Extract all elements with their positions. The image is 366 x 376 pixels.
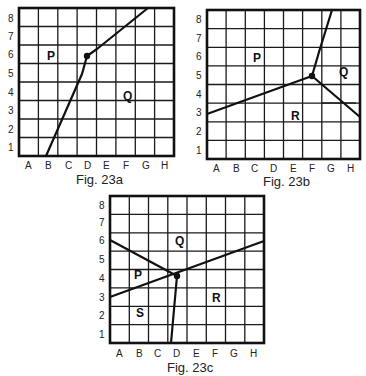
fig-23c-point: [174, 273, 180, 279]
x-tick: G: [327, 163, 335, 174]
y-tick: 6: [8, 49, 14, 60]
region-label-r: R: [291, 109, 300, 123]
fig-23b-grid: [207, 10, 360, 159]
fig-23b-point: [309, 73, 315, 79]
fig-23b-boundary-right: [312, 76, 360, 117]
y-tick: 4: [196, 89, 202, 100]
x-tick: H: [347, 163, 354, 174]
x-tick: F: [212, 348, 218, 359]
fig-23a-caption: Fig. 23a: [76, 172, 124, 187]
y-tick: 3: [99, 292, 105, 303]
x-tick: F: [309, 163, 315, 174]
fig-23b-y-axis: 1 2 3 4 5 6 7 8: [196, 14, 202, 156]
region-label-p: P: [47, 49, 55, 63]
x-tick: G: [142, 160, 150, 171]
region-label-s: S: [136, 306, 144, 320]
x-tick: A: [213, 163, 220, 174]
fig-23a-grid: [19, 8, 174, 156]
y-tick: 3: [196, 107, 202, 118]
region-label-p: P: [134, 268, 142, 282]
x-tick: E: [290, 163, 297, 174]
y-tick: 7: [99, 217, 105, 228]
region-label-q: Q: [175, 234, 184, 248]
fig-23a-y-axis: 1 2 3 4 5 6 7 8: [8, 13, 14, 153]
x-tick: B: [136, 348, 143, 359]
y-tick: 8: [99, 200, 105, 211]
fig-23a: 1 2 3 4 5 6 7 8 A B C D E F G H P Q Fig.…: [8, 8, 174, 187]
x-tick: H: [250, 348, 257, 359]
x-tick: E: [193, 348, 200, 359]
y-tick: 3: [8, 105, 14, 116]
x-tick: B: [233, 163, 240, 174]
region-label-q: Q: [339, 65, 348, 79]
y-tick: 7: [8, 31, 14, 42]
y-tick: 7: [196, 33, 202, 44]
y-tick: 5: [99, 254, 105, 265]
fig-23b-caption: Fig. 23b: [263, 174, 310, 189]
fig-23a-x-axis: A B C D E F G H: [25, 160, 168, 171]
fig-23c-x-axis: A B C D E F G H: [116, 348, 257, 359]
region-label-p: P: [253, 51, 261, 65]
x-tick: C: [251, 163, 258, 174]
fig-23b: 1 2 3 4 5 6 7 8 A B C D E F G H P Q R Fi…: [196, 10, 360, 189]
y-tick: 1: [99, 329, 105, 340]
y-tick: 6: [99, 235, 105, 246]
x-tick: D: [173, 348, 180, 359]
x-tick: D: [270, 163, 277, 174]
y-tick: 2: [196, 126, 202, 137]
y-tick: 1: [196, 145, 202, 156]
x-tick: B: [45, 160, 52, 171]
x-tick: E: [103, 160, 110, 171]
region-label-r: R: [212, 291, 221, 305]
y-tick: 1: [8, 142, 14, 153]
y-tick: 8: [196, 14, 202, 25]
x-tick: F: [123, 160, 129, 171]
y-tick: 6: [196, 51, 202, 62]
y-tick: 4: [99, 273, 105, 284]
fig-23c-boundary-upper: [110, 240, 177, 276]
x-tick: C: [65, 160, 72, 171]
x-tick: G: [230, 348, 238, 359]
y-tick: 2: [99, 310, 105, 321]
x-tick: D: [84, 160, 91, 171]
x-tick: A: [116, 348, 123, 359]
fig-23b-x-axis: A B C D E F G H: [213, 163, 354, 174]
region-label-q: Q: [123, 89, 132, 103]
fig-23c-y-axis: 1 2 3 4 5 6 7 8: [99, 200, 105, 340]
fig-23a-point: [84, 53, 90, 59]
y-tick: 5: [8, 68, 14, 79]
x-tick: A: [25, 160, 32, 171]
x-tick: H: [161, 160, 168, 171]
fig-23c-boundary-down: [171, 276, 177, 343]
y-tick: 4: [8, 87, 14, 98]
x-tick: C: [154, 348, 161, 359]
y-tick: 8: [8, 13, 14, 24]
y-tick: 2: [8, 124, 14, 135]
fig-23c-caption: Fig. 23c: [167, 360, 214, 375]
figure-sheet: 1 2 3 4 5 6 7 8 A B C D E F G H P Q Fig.…: [0, 0, 366, 376]
y-tick: 5: [196, 70, 202, 81]
fig-23c: 1 2 3 4 5 6 7 8 A B C D E F G H P Q R S …: [99, 196, 264, 375]
